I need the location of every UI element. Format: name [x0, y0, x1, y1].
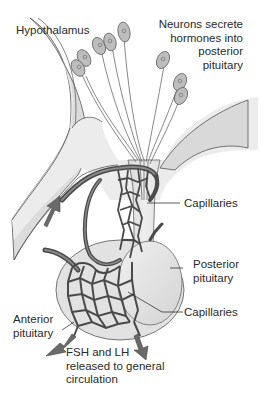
capillaries-upper-label: Capillaries — [184, 197, 238, 211]
right-tissue-band — [160, 100, 248, 170]
release-label: FSH and LH released to general circulati… — [66, 346, 164, 387]
neurons-label: Neurons secrete hormones into posterior … — [145, 18, 243, 72]
posterior-pituitary-label: Posterior pituitary — [193, 258, 239, 285]
capillaries-lower-label: Capillaries — [184, 306, 238, 320]
anterior-pituitary-label: Anterior pituitary — [13, 313, 53, 340]
hypothalamus-label: Hypothalamus — [16, 24, 90, 38]
